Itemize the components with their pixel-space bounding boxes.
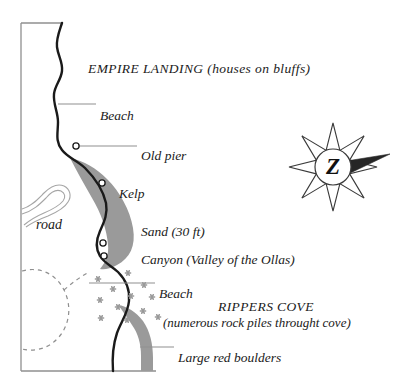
map-label-sand: Sand (30 ft) xyxy=(141,224,205,240)
old-pier-marker xyxy=(73,143,79,149)
map-label-beach-north: Beach xyxy=(100,108,134,124)
rock-pile-icon xyxy=(95,277,100,282)
map-label-beach-south: Beach xyxy=(159,286,193,302)
rock-pile-icon xyxy=(155,315,160,320)
rock-pile-icon xyxy=(149,295,154,300)
compass-star-point xyxy=(326,184,340,211)
map-label-canyon: Canyon (Valley of the Ollas) xyxy=(141,252,295,268)
canyon-marker-lower xyxy=(101,253,107,259)
map-canvas: Z EMPIRE LANDING (houses on bluffs)Beach… xyxy=(0,0,400,391)
compass-star-point xyxy=(326,123,340,150)
rock-pile-icon xyxy=(110,287,115,292)
map-label-rippers-cove: RIPPERS COVE xyxy=(218,299,314,315)
map-label-old-pier: Old pier xyxy=(141,148,186,164)
rock-pile-icon xyxy=(140,309,145,314)
dashed-contour-branch xyxy=(64,272,89,290)
rock-pile-icon xyxy=(125,271,130,276)
map-label-large-red-boulders: Large red boulders xyxy=(178,350,281,366)
map-label-kelp: Kelp xyxy=(119,186,145,202)
canyon-marker-upper xyxy=(100,240,106,246)
rock-pile-icon xyxy=(98,316,103,321)
dashed-contour-line xyxy=(22,270,69,351)
compass-rose: Z xyxy=(289,123,390,211)
map-graphics-layer: Z xyxy=(0,0,400,391)
large-red-boulders-area xyxy=(118,305,153,371)
map-label-road: road xyxy=(36,217,62,233)
map-label-empire-landing: EMPIRE LANDING (houses on bluffs) xyxy=(88,61,310,77)
compass-center-letter: Z xyxy=(325,154,340,179)
compass-star-point xyxy=(289,160,316,174)
kelp-marker xyxy=(99,180,105,186)
rock-pile-icon xyxy=(97,298,102,303)
kelp-shading-area xyxy=(70,158,134,269)
map-label-rippers-cove-note: (numerous rock piles throught cove) xyxy=(163,315,351,331)
